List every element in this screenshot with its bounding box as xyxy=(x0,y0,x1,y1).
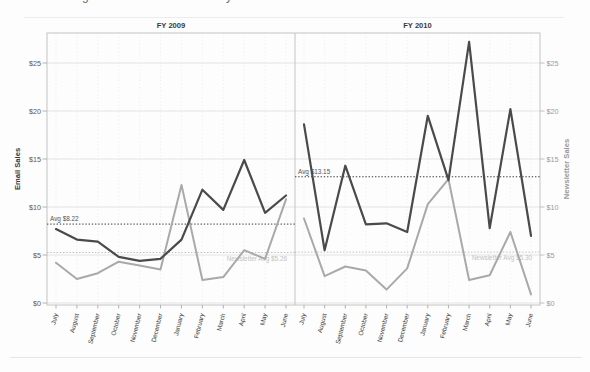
right-axis-tick-label: $0 xyxy=(547,299,555,308)
newsletter-sales-line xyxy=(56,185,286,280)
month-label: March xyxy=(461,312,472,331)
right-axis-tick-label: $15 xyxy=(547,155,559,164)
left-axis-tick-label: $0 xyxy=(33,299,41,308)
month-label: December xyxy=(150,312,164,343)
left-axis-tick-label: $20 xyxy=(29,107,41,116)
month-label: December xyxy=(396,312,410,343)
left-axis-title: Email Sales xyxy=(13,148,22,190)
month-label: November xyxy=(129,312,143,343)
email-sales-line xyxy=(304,42,531,250)
right-axis-title: Newsletter Sales xyxy=(562,139,571,199)
right-axis-tick-label: $20 xyxy=(547,107,559,116)
left-axis-tick-label: $25 xyxy=(29,59,41,68)
month-label: January xyxy=(172,312,185,337)
month-label: May xyxy=(504,312,515,326)
right-axis-tick-label: $10 xyxy=(547,203,559,212)
panel-title: FY 2010 xyxy=(403,21,432,30)
month-label: September xyxy=(334,312,350,345)
month-label: August xyxy=(68,312,81,333)
month-label: May xyxy=(258,312,269,326)
right-axis-tick-label: $5 xyxy=(547,251,555,260)
avg-label: Avg $13.15 xyxy=(298,168,331,176)
month-label: September xyxy=(86,312,102,345)
month-label: February xyxy=(438,312,452,340)
chart-page: g y $0$5$10$15$20$25$0$5$10$15$20$25FY 2… xyxy=(0,0,590,372)
panel-title: FY 2009 xyxy=(157,21,186,30)
month-label: April xyxy=(237,313,248,327)
month-label: July xyxy=(49,312,60,326)
month-label: February xyxy=(192,312,206,340)
month-label: November xyxy=(376,312,390,343)
month-label: October xyxy=(357,312,370,337)
email-sales-line xyxy=(56,160,286,261)
left-axis-tick-label: $5 xyxy=(33,251,41,260)
month-label: January xyxy=(418,312,431,337)
month-label: August xyxy=(316,312,329,333)
avg-label: Avg $8.22 xyxy=(50,215,79,223)
right-axis-tick-label: $25 xyxy=(547,59,559,68)
left-axis-tick-label: $10 xyxy=(29,203,41,212)
sales-line-chart: $0$5$10$15$20$25$0$5$10$15$20$25FY 2009A… xyxy=(0,0,590,372)
newsletter-avg-label: Newsletter Avg $5.30 xyxy=(472,254,533,262)
left-axis-tick-label: $15 xyxy=(29,155,41,164)
month-label: July xyxy=(297,312,308,326)
month-label: June xyxy=(524,312,534,328)
month-label: March xyxy=(215,312,226,331)
month-label: October xyxy=(109,312,122,337)
month-label: June xyxy=(279,312,289,328)
month-label: April xyxy=(483,313,494,327)
